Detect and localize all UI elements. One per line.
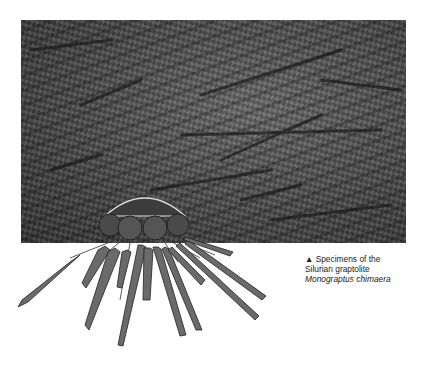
species-name: Monograptus chimaera [305,274,391,284]
triangle-marker-icon: ▲ [305,254,313,264]
graptolite-illustration [0,0,429,367]
figure-caption: ▲ Specimens of the Silurian graptolite M… [305,254,391,284]
float [99,198,189,240]
